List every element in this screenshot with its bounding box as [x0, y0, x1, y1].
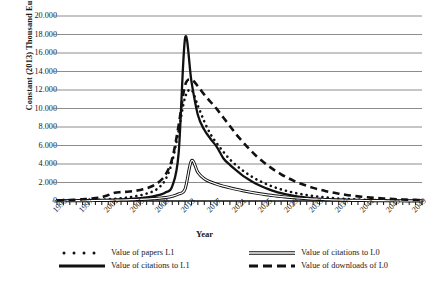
legend-column-right: Value of citations to L0Value of downloa… — [248, 246, 388, 272]
plot-area — [0, 0, 440, 281]
legend-column-left: Value of papers L1Value of citations to … — [58, 246, 190, 272]
chart-figure: Constant (2013) Thousand Euro 20.00018.0… — [0, 0, 440, 281]
legend-item-label: Value of citations to L1 — [111, 261, 190, 270]
legend-item-label: Value of papers L1 — [111, 248, 175, 257]
x-axis-title: Year — [196, 229, 213, 239]
dotted-marker — [58, 248, 106, 257]
series-line — [57, 36, 422, 201]
legend-item[interactable]: Value of citations to L0 — [248, 246, 388, 259]
chart-legend: Value of papers L1Value of citations to … — [0, 246, 440, 278]
legend-item[interactable]: Value of papers L1 — [58, 246, 190, 259]
legend-item-label: Value of citations to L0 — [301, 248, 380, 257]
double-line-marker — [248, 248, 296, 257]
legend-item[interactable]: Value of downloads of L0 — [248, 259, 388, 272]
legend-item-label: Value of downloads of L0 — [301, 261, 388, 270]
legend-item[interactable]: Value of citations to L1 — [58, 259, 190, 272]
solid-thick-marker — [58, 261, 106, 270]
dashed-thick-marker — [248, 261, 296, 270]
